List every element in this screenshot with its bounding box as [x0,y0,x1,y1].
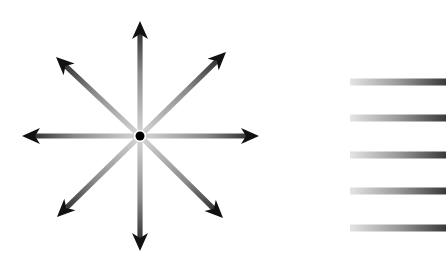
arrow-down-right [142,138,223,218]
arrow-shaft [142,59,218,133]
gradient-bar-5 [350,225,446,232]
arrow-down-left [57,138,138,217]
arrow-shaft [35,133,134,138]
diagram-canvas [0,0,446,264]
diagram-figure [0,0,446,264]
arrow-shaft [146,133,246,138]
gradient-bar-4 [350,188,446,195]
arrow-left [22,128,134,144]
arrow-shaft [137,142,142,238]
radial-arrow-burst [22,21,259,251]
center-dot [136,132,145,141]
arrow-shaft [137,34,142,130]
gradient-bar-1 [350,79,446,86]
gradient-bar-3 [350,152,446,159]
arrow-shaft [64,138,137,209]
arrow-down [132,142,148,251]
arrow-up-left [56,57,137,134]
arrow-shaft [142,138,215,210]
arrow-right [146,128,259,144]
arrow-up-right [142,52,226,134]
gradient-bars-stack [350,79,446,232]
gradient-bar-2 [350,115,446,122]
arrow-up [132,21,148,130]
arrow-shaft [64,64,138,134]
